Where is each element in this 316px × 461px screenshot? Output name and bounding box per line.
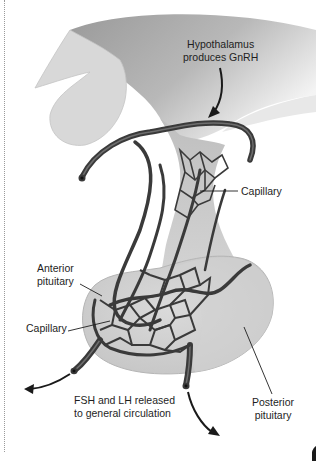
corner-fragment	[312, 446, 316, 461]
label-fsh-lh-release: FSH and LH released to general circulati…	[74, 394, 175, 419]
label-posterior-line2: pituitary	[252, 409, 294, 422]
label-anterior-line2: pituitary	[37, 275, 74, 288]
label-capillary-upper: Capillary	[241, 185, 282, 198]
label-anterior-line1: Anterior	[37, 262, 74, 275]
release-arrow-bottom-icon	[188, 392, 220, 436]
label-posterior-line1: Posterior	[252, 396, 294, 409]
pituitary-portal-illustration	[0, 0, 316, 461]
label-anterior-pituitary: Anterior pituitary	[37, 262, 74, 287]
pituitary-gland	[83, 256, 274, 374]
label-hypothalamus-line2: produces GnRH	[183, 51, 258, 64]
label-release-line1: FSH and LH released	[74, 394, 175, 407]
label-release-line2: to general circulation	[74, 407, 175, 420]
label-capillary-lower: Capillary	[26, 322, 67, 335]
label-hypothalamus: Hypothalamus produces GnRH	[183, 38, 258, 63]
release-arrow-left-icon	[24, 374, 70, 394]
label-posterior-pituitary: Posterior pituitary	[252, 396, 294, 421]
label-hypothalamus-line1: Hypothalamus	[183, 38, 258, 51]
